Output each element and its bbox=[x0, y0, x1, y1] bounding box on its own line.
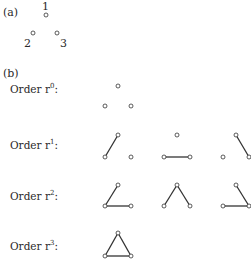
graph-node bbox=[234, 183, 238, 187]
node-2 bbox=[31, 31, 35, 35]
graph-node bbox=[221, 204, 225, 208]
graph-edge bbox=[105, 135, 118, 157]
subgraph-order-1-1 bbox=[103, 133, 133, 159]
subgraph-order-2-3 bbox=[221, 183, 251, 208]
graph-node bbox=[116, 84, 120, 88]
graph-node bbox=[103, 254, 107, 258]
graph-node bbox=[103, 204, 107, 208]
graph-node bbox=[116, 183, 120, 187]
subgraph-order-2-2 bbox=[162, 183, 192, 208]
graph-node bbox=[175, 183, 179, 187]
graph-node bbox=[116, 133, 120, 137]
subgraph-order-0-1 bbox=[103, 84, 133, 108]
graph-node bbox=[188, 204, 192, 208]
graph-node bbox=[247, 204, 251, 208]
node-3 bbox=[55, 31, 59, 35]
graph-node bbox=[129, 254, 133, 258]
graph-node bbox=[116, 231, 120, 235]
node-1 bbox=[44, 13, 48, 17]
graph-node bbox=[103, 155, 107, 159]
graph-edge bbox=[164, 185, 177, 206]
graph-node bbox=[162, 204, 166, 208]
subgraph-order-2-1 bbox=[103, 183, 133, 208]
graph-diagram bbox=[0, 0, 251, 267]
graph-edge bbox=[118, 233, 131, 256]
graph-node bbox=[162, 155, 166, 159]
graph-edge bbox=[236, 185, 249, 206]
graph-node bbox=[175, 133, 179, 137]
graph-edge bbox=[236, 135, 249, 157]
subgraph-order-1-2 bbox=[162, 133, 192, 159]
graph-node bbox=[129, 155, 133, 159]
graph-edge bbox=[105, 185, 118, 206]
subgraph-order-3-1 bbox=[103, 231, 133, 258]
graph-node bbox=[247, 155, 251, 159]
graph-node bbox=[221, 155, 225, 159]
graph-node bbox=[103, 104, 107, 108]
subgraph-order-1-3 bbox=[221, 133, 251, 159]
graph-edge bbox=[105, 233, 118, 256]
graph-node bbox=[129, 104, 133, 108]
graph-node bbox=[188, 155, 192, 159]
graph-edge bbox=[177, 185, 190, 206]
graph-node bbox=[234, 133, 238, 137]
graph-node bbox=[129, 204, 133, 208]
